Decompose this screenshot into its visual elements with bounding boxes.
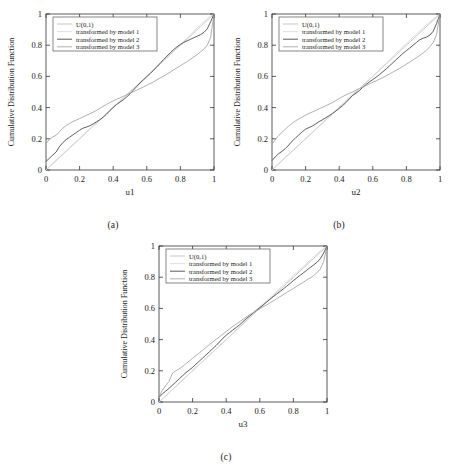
- figure-cdf-comparison: 00.20.40.60.8100.20.40.60.81u1Cumulative…: [0, 0, 452, 464]
- x-tick-label: 1: [325, 406, 329, 416]
- x-tick-label: 0.8: [288, 406, 299, 416]
- y-tick-label: 1: [151, 241, 155, 251]
- y-tick-label: 1: [38, 9, 42, 19]
- y-tick-label: 0.4: [257, 103, 268, 113]
- legend-label: transformed by model 1: [302, 28, 365, 35]
- legend-label: transformed by model 1: [76, 28, 139, 35]
- y-tick-label: 0.4: [144, 335, 155, 345]
- y-tick-label: 0: [264, 165, 268, 175]
- x-tick-label: 0: [44, 174, 48, 184]
- y-tick-label: 0: [38, 165, 42, 175]
- x-tick-label: 0.2: [300, 174, 311, 184]
- legend-label: transformed by model 2: [76, 36, 139, 43]
- x-tick-label: 0.4: [108, 174, 119, 184]
- x-axis-label: u3: [239, 419, 249, 429]
- x-tick-label: 1: [438, 174, 442, 184]
- plot-area-c: 00.20.40.60.8100.20.40.60.81u3Cumulative…: [113, 232, 339, 464]
- plot-area-a: 00.20.40.60.8100.20.40.60.81u1Cumulative…: [0, 0, 226, 232]
- x-tick-label: 0: [270, 174, 274, 184]
- y-tick-label: 0.8: [257, 40, 268, 50]
- x-tick-label: 0.2: [187, 406, 198, 416]
- legend-label: transformed by model 3: [189, 275, 253, 282]
- y-tick-label: 0.2: [31, 134, 42, 144]
- y-axis-label: Cumulative Distribution Function: [7, 38, 16, 146]
- y-tick-label: 0.8: [31, 40, 42, 50]
- panel-b: 00.20.40.60.8100.20.40.60.81u2Cumulative…: [226, 0, 452, 232]
- y-tick-label: 0.6: [144, 303, 155, 313]
- x-tick-label: 0.2: [74, 174, 85, 184]
- y-tick-label: 0.8: [144, 272, 155, 282]
- plot-area-b: 00.20.40.60.8100.20.40.60.81u2Cumulative…: [226, 0, 452, 232]
- chart-svg-b: 00.20.40.60.8100.20.40.60.81u2Cumulative…: [226, 0, 452, 210]
- chart-svg-a: 00.20.40.60.8100.20.40.60.81u1Cumulative…: [0, 0, 226, 210]
- panel-caption-a: (a): [0, 220, 226, 230]
- y-tick-label: 0.2: [144, 366, 155, 376]
- legend-label: transformed by model 2: [189, 268, 252, 275]
- y-axis-label: Cumulative Distribution Function: [120, 270, 129, 378]
- x-axis-label: u2: [352, 187, 361, 197]
- legend-label: transformed by model 3: [302, 43, 366, 50]
- x-tick-label: 1: [212, 174, 216, 184]
- x-axis-label: u1: [126, 187, 135, 197]
- panel-caption-b: (b): [226, 220, 452, 230]
- panel-c: 00.20.40.60.8100.20.40.60.81u3Cumulative…: [113, 232, 339, 464]
- x-tick-label: 0.8: [175, 174, 186, 184]
- y-tick-label: 1: [264, 9, 268, 19]
- x-tick-label: 0: [157, 406, 161, 416]
- panel-caption-c: (c): [113, 452, 339, 462]
- y-tick-label: 0.4: [31, 103, 42, 113]
- y-tick-label: 0: [151, 397, 155, 407]
- x-tick-label: 0.6: [254, 406, 265, 416]
- x-tick-label: 0.4: [334, 174, 345, 184]
- legend-label: transformed by model 2: [302, 36, 365, 43]
- y-tick-label: 0.2: [257, 134, 268, 144]
- x-tick-label: 0.6: [367, 174, 378, 184]
- panel-a: 00.20.40.60.8100.20.40.60.81u1Cumulative…: [0, 0, 226, 232]
- x-tick-label: 0.6: [141, 174, 152, 184]
- legend-label: transformed by model 3: [76, 43, 140, 50]
- legend-label: transformed by model 1: [189, 260, 252, 267]
- x-tick-label: 0.8: [401, 174, 412, 184]
- chart-svg-c: 00.20.40.60.8100.20.40.60.81u3Cumulative…: [113, 232, 339, 442]
- y-tick-label: 0.6: [31, 71, 42, 81]
- y-tick-label: 0.6: [257, 71, 268, 81]
- y-axis-label: Cumulative Distribution Function: [233, 38, 242, 146]
- x-tick-label: 0.4: [221, 406, 232, 416]
